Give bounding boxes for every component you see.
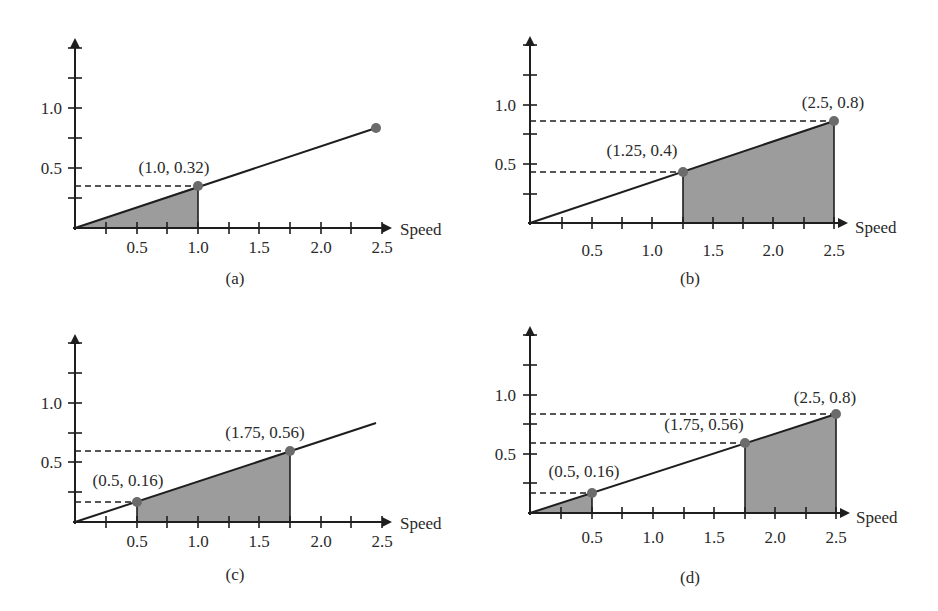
shaded-region [683, 121, 834, 223]
y-tick-label: 0.5 [495, 155, 516, 174]
x-tick-label: 1.0 [642, 528, 663, 547]
y-tick-label: 1.0 [41, 99, 62, 118]
panel-c: 1.0 0.5 0.5 1.0 1.5 2.0 2.5 Speed (0.5, … [41, 338, 442, 584]
data-point [132, 497, 142, 507]
x-tick-label: 1.5 [703, 528, 724, 547]
point-label: (2.5, 0.8) [794, 388, 856, 407]
y-tick-label: 1.0 [495, 96, 516, 115]
data-point [678, 167, 688, 177]
y-tick-label: 0.5 [41, 159, 62, 178]
speed-line [75, 128, 376, 228]
x-axis-title: Speed [400, 220, 442, 239]
point-label: (0.5, 0.16) [93, 471, 164, 490]
x-axis-title: Speed [400, 514, 442, 533]
data-point [587, 488, 597, 498]
x-tick-label: 0.5 [126, 238, 147, 257]
panel-d: 1.0 0.5 0.5 1.0 1.5 2.0 2.5 Speed (0.5, … [495, 330, 898, 587]
data-point [193, 181, 203, 191]
x-tick-label: 1.5 [248, 532, 269, 551]
point-label: (2.5, 0.8) [802, 93, 864, 112]
x-tick-label: 2.0 [762, 241, 783, 260]
x-tick-label: 1.0 [641, 241, 662, 260]
x-tick-label: 2.5 [371, 532, 392, 551]
y-tick-label: 1.0 [41, 394, 62, 413]
point-label: (1.25, 0.4) [607, 141, 678, 160]
x-tick-label: 0.5 [126, 532, 147, 551]
x-tick-label: 0.5 [581, 528, 602, 547]
x-tick-label: 2.0 [310, 238, 331, 257]
panel-b: 1.0 0.5 0.5 1.0 1.5 2.0 2.5 Speed (1.25,… [495, 40, 897, 288]
point-label: (1.0, 0.32) [139, 158, 210, 177]
data-point [285, 446, 295, 456]
y-tick-label: 0.5 [495, 445, 516, 464]
point-label: (1.75, 0.56) [225, 423, 304, 442]
data-point [371, 123, 381, 133]
x-tick-label: 2.0 [310, 532, 331, 551]
data-point [831, 409, 841, 419]
point-label: (1.75, 0.56) [664, 415, 743, 434]
data-point [829, 116, 839, 126]
x-axis-title: Speed [855, 218, 897, 237]
x-tick-label: 2.0 [764, 528, 785, 547]
panel-caption: (d) [680, 568, 700, 587]
x-tick-label: 0.5 [581, 241, 602, 260]
x-tick-label: 1.0 [187, 532, 208, 551]
x-tick-label: 2.5 [823, 241, 844, 260]
y-tick-label: 0.5 [41, 453, 62, 472]
panel-caption: (c) [226, 565, 245, 584]
x-tick-label: 2.5 [371, 238, 392, 257]
x-tick-label: 2.5 [825, 528, 846, 547]
point-label: (0.5, 0.16) [549, 462, 620, 481]
panel-caption: (b) [680, 269, 700, 288]
y-tick-label: 1.0 [495, 386, 516, 405]
x-axis-title: Speed [856, 508, 898, 527]
x-tick-label: 1.5 [248, 238, 269, 257]
data-point [740, 438, 750, 448]
panel-a: 1.0 0.5 0.5 1.0 1.5 2.0 2.5 Speed (1.0, … [41, 42, 442, 288]
panel-caption: (a) [226, 269, 245, 288]
x-tick-label: 1.5 [702, 241, 723, 260]
figure: 1.0 0.5 0.5 1.0 1.5 2.0 2.5 Speed (1.0, … [0, 0, 938, 611]
x-tick-label: 1.0 [187, 238, 208, 257]
